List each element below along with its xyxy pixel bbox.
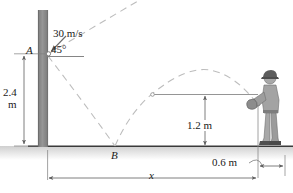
label-point-b: B	[111, 150, 118, 161]
ground-band	[0, 146, 293, 160]
rebound-trajectory-a-to-b	[48, 56, 115, 146]
label-wall-height-value: 2.4	[3, 87, 17, 98]
label-catch-height: 1.2 m	[187, 120, 212, 131]
catcher-belt	[263, 110, 278, 113]
leader-0p6m	[249, 160, 262, 165]
label-range-x: x	[149, 170, 154, 181]
label-wall-height-unit: m	[8, 99, 17, 110]
bounce-trajectory-b-to-catch	[115, 70, 258, 147]
ball-marker-arc	[151, 93, 155, 97]
label-catcher-offset: 0.6 m	[212, 157, 237, 168]
ball-marker-a	[46, 52, 50, 56]
catcher-left-leg	[262, 112, 270, 143]
catcher-right-leg	[271, 112, 279, 143]
catcher-helmet-brim	[261, 77, 279, 79]
projectile-bounce-diagram: A B 30 m/s 45° 2.4 m 1.2 m 0.6 m x	[0, 0, 293, 193]
diagram-canvas	[0, 0, 293, 193]
label-point-a: A	[26, 45, 33, 56]
catcher-glove	[247, 99, 257, 109]
catcher-figure	[247, 70, 281, 145]
label-angle: 45°	[51, 44, 66, 55]
catcher-right-shoe	[269, 141, 281, 145]
wall	[38, 10, 48, 147]
label-speed: 30 m/s	[53, 28, 83, 39]
